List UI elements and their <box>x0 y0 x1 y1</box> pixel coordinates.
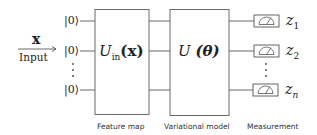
gate-argument: (x) <box>120 42 143 60</box>
output-sub: 1 <box>293 21 299 31</box>
qubit-ket: |0⟩ <box>64 14 79 27</box>
output-z1: z1 <box>286 12 299 31</box>
variational-gate-label: U (θ) <box>178 42 220 60</box>
qubit-ket: |0⟩ <box>64 83 79 96</box>
output-sub: 2 <box>293 51 299 61</box>
feature-map-gate-label: Uin(x) <box>99 42 143 62</box>
gate-symbol: U <box>178 42 191 60</box>
input-label: Input <box>19 51 48 63</box>
circuit-diagram <box>0 0 317 135</box>
feature-map-box <box>95 10 149 115</box>
gate-argument: (θ) <box>195 42 219 60</box>
meter-icon <box>253 84 278 96</box>
qubit-ket: |0⟩ <box>64 44 79 57</box>
variational-model-caption: Variational model <box>164 122 230 131</box>
output-z2: z2 <box>286 42 299 61</box>
meter-icon <box>254 45 279 57</box>
input-symbol: x <box>32 31 40 47</box>
meter-icon <box>254 15 279 27</box>
gate-symbol: U <box>99 42 112 60</box>
output-sub: n <box>292 90 298 100</box>
measurement-caption: Measurement <box>247 122 299 131</box>
output-zn: zn <box>285 81 298 100</box>
feature-map-caption: Feature map <box>97 122 144 131</box>
variational-model-box <box>170 10 229 116</box>
